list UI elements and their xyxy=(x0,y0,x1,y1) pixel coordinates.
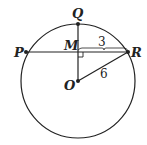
point-o xyxy=(76,79,80,83)
length-or: 6 xyxy=(100,67,108,81)
label-p: P xyxy=(13,45,25,60)
label-m: M xyxy=(63,38,79,53)
point-r xyxy=(126,50,130,54)
point-p xyxy=(24,50,28,54)
length-mr: 3 xyxy=(98,35,106,49)
point-q xyxy=(76,22,80,26)
label-r: R xyxy=(130,45,142,60)
right-angle-marker xyxy=(78,52,83,57)
label-o: O xyxy=(64,78,76,93)
diagram-canvas: Q P M R O 3 6 xyxy=(0,0,147,145)
geometry-diagram: Q P M R O 3 6 xyxy=(0,0,147,145)
label-q: Q xyxy=(72,6,84,21)
